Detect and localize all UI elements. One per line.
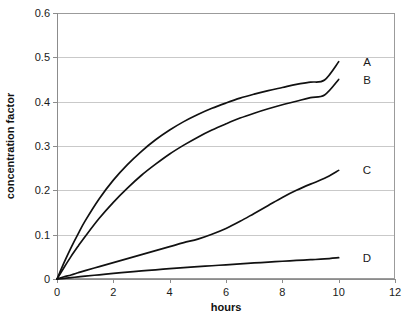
concentration-factor-line-chart: 024681012 00.10.20.30.40.50.6 ABCD hours… <box>0 0 406 323</box>
chart-svg: 024681012 00.10.20.30.40.50.6 ABCD hours… <box>0 0 406 323</box>
series-label-c: C <box>363 164 371 176</box>
y-axis-title: concentration factor <box>4 92 16 199</box>
x-tick-label: 8 <box>279 286 285 298</box>
series-label-d: D <box>363 252 371 264</box>
y-tick-label-group: 00.10.20.30.40.50.6 <box>35 7 50 285</box>
y-tick-label: 0.4 <box>35 96 50 108</box>
series-label-b: B <box>363 74 371 86</box>
y-tick-label: 0.5 <box>35 51 50 63</box>
x-tick-label: 6 <box>223 286 229 298</box>
y-tick-label: 0.2 <box>35 184 50 196</box>
x-tick-label: 4 <box>167 286 173 298</box>
y-tick-label: 0.1 <box>35 229 50 241</box>
x-tick-label: 0 <box>54 286 60 298</box>
x-axis-title: hours <box>211 301 242 313</box>
y-tick-label: 0 <box>44 273 50 285</box>
y-tick-label: 0.3 <box>35 140 50 152</box>
x-tick-label: 12 <box>389 286 401 298</box>
y-tick-label: 0.6 <box>35 7 50 19</box>
series-label-a: A <box>363 56 371 68</box>
x-tick-label: 2 <box>110 286 116 298</box>
x-tick-label-group: 024681012 <box>54 286 401 298</box>
y-tick-group <box>53 14 57 280</box>
x-tick-label: 10 <box>333 286 345 298</box>
